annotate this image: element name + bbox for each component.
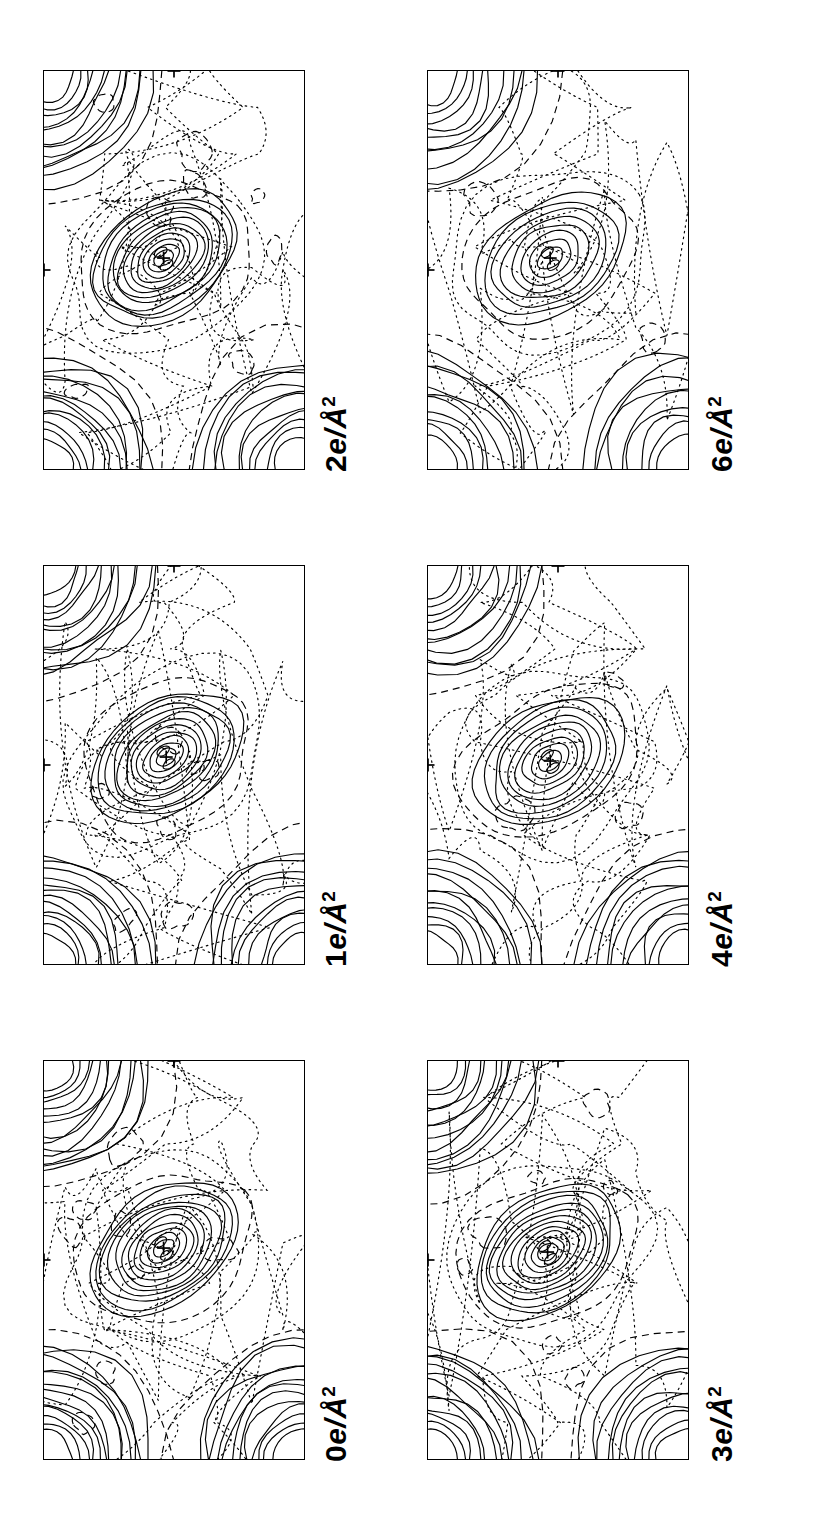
contour-line — [539, 1241, 551, 1252]
contour-map-figure: 0e/Å2 1e/Å2 2e/Å2 3e/Å2 4e/Å2 6e/Å2 — [0, 0, 822, 1527]
contour-line — [428, 1355, 521, 1459]
contour-line — [204, 372, 305, 469]
atom-marker — [544, 755, 557, 768]
atom-marker — [44, 264, 51, 277]
contour-line — [627, 904, 688, 964]
contour-line — [44, 867, 135, 964]
contour-line — [586, 860, 688, 964]
contour-line — [44, 915, 86, 964]
contour-canvas — [44, 1061, 304, 1459]
contour-line — [604, 672, 624, 689]
contour-canvas — [428, 71, 688, 469]
contour-line — [428, 1421, 466, 1459]
contour-line — [428, 412, 483, 469]
contour-panel-1 — [43, 565, 305, 965]
atom-marker — [428, 1254, 435, 1267]
contour-line — [623, 899, 688, 964]
contour-line — [211, 872, 304, 965]
contour-line — [428, 71, 524, 185]
contour-line — [231, 891, 304, 964]
contour-line — [44, 421, 88, 469]
contour-line — [547, 260, 559, 271]
panel-label-4-value: 4 — [705, 950, 738, 967]
contour-line — [44, 376, 127, 469]
contour-line — [44, 358, 154, 469]
contour-line — [428, 566, 521, 664]
contour-line — [565, 1367, 585, 1389]
contour-line — [86, 566, 268, 964]
contour-line — [528, 1171, 546, 1185]
contour-line — [428, 71, 457, 106]
contour-line — [428, 435, 457, 469]
panel-label-3-units: e/Å — [705, 1397, 738, 1445]
contour-line — [428, 1061, 457, 1090]
contour-line — [44, 566, 114, 630]
contour-line — [274, 438, 304, 469]
contour-line — [44, 1061, 80, 1098]
contour-canvas — [428, 566, 688, 964]
contour-line — [89, 1061, 261, 1459]
contour-line — [249, 909, 304, 964]
contour-line — [221, 391, 304, 469]
contour-line — [428, 566, 499, 640]
contour-line — [542, 1335, 562, 1354]
contour-line — [659, 929, 688, 964]
contour-line — [428, 930, 458, 964]
contour-line — [428, 916, 473, 964]
contour-line — [468, 1217, 507, 1248]
contour-line — [428, 71, 563, 191]
contour-line — [232, 885, 304, 964]
contour-line — [44, 71, 74, 102]
panel-label-1-units: e/Å — [319, 902, 352, 950]
contour-line — [649, 421, 688, 469]
contour-line — [260, 913, 304, 964]
atom-marker — [168, 71, 181, 78]
panel-label-2-exponent: 2 — [318, 396, 339, 407]
panel-label-2: 2e/Å2 — [318, 396, 353, 472]
contour-line — [428, 1396, 485, 1459]
contour-line — [428, 121, 688, 336]
contour-line — [44, 566, 79, 607]
contour-panel-5 — [427, 70, 689, 470]
contour-line — [255, 419, 304, 469]
contour-line — [593, 1348, 688, 1459]
contour-line — [251, 189, 264, 204]
panel-label-1: 1e/Å2 — [318, 891, 353, 967]
contour-line — [44, 1061, 148, 1172]
contour-panel-3 — [427, 1060, 689, 1460]
contour-line — [44, 566, 101, 626]
contour-line — [44, 1061, 108, 1123]
panel-label-1-exponent: 2 — [318, 891, 339, 902]
contour-line — [428, 908, 481, 964]
panel-label-3-value: 3 — [705, 1445, 738, 1462]
contour-line — [475, 71, 655, 469]
contour-line — [657, 434, 688, 469]
contour-line — [267, 427, 304, 469]
panel-label-4-exponent: 2 — [704, 891, 725, 902]
contour-line — [571, 1329, 688, 1459]
contour-line — [428, 566, 458, 599]
panel-label-5: 6e/Å2 — [704, 396, 739, 472]
contour-line — [596, 866, 688, 964]
contour-line — [649, 1420, 688, 1459]
contour-line — [428, 189, 688, 421]
contour-line — [428, 1061, 539, 1169]
contour-line — [44, 924, 79, 965]
contour-panel-4 — [427, 565, 689, 965]
panel-label-4: 4e/Å2 — [704, 891, 739, 967]
contour-line — [583, 1089, 610, 1118]
contour-line — [428, 566, 463, 607]
panel-label-1-value: 1 — [319, 950, 352, 967]
contour-line — [44, 1061, 177, 1187]
contour-line — [44, 1384, 122, 1459]
contour-line — [44, 820, 159, 964]
contour-line — [266, 235, 281, 265]
contour-line — [547, 763, 559, 774]
contour-line — [44, 566, 76, 596]
contour-line — [428, 395, 504, 469]
atom-marker — [44, 759, 51, 772]
contour-line — [44, 1061, 74, 1091]
atom-marker — [544, 252, 557, 265]
atom-marker — [541, 1246, 554, 1259]
contour-canvas — [44, 566, 304, 964]
